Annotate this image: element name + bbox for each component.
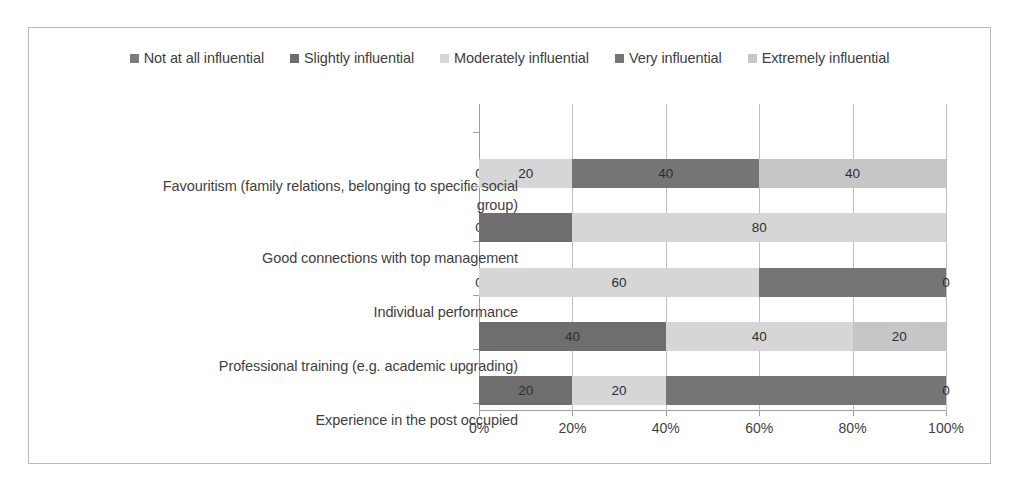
bar-segment[interactable]: 20	[853, 322, 946, 351]
gridline	[759, 104, 760, 411]
category-label: Individual performance	[118, 303, 518, 322]
bar-segment[interactable]: 20	[479, 376, 572, 405]
legend-item[interactable]: Slightly influential	[290, 50, 414, 66]
legend-item[interactable]: Not at all influential	[130, 50, 264, 66]
bar-segment[interactable]: 60	[479, 268, 759, 297]
chart-container: Not at all influentialSlightly influenti…	[28, 27, 991, 464]
legend-swatch-icon	[290, 54, 299, 63]
gridline	[666, 104, 667, 411]
bar-segment[interactable]	[479, 213, 572, 242]
bar-segment-data-label: 40	[565, 329, 580, 344]
plot-area: 0204040080060040402020200	[479, 104, 946, 411]
y-axis-tick	[473, 132, 479, 133]
bar-segment[interactable]	[666, 376, 946, 405]
x-axis-tick	[853, 411, 854, 416]
x-axis-label: 60%	[745, 420, 773, 436]
category-label: Experience in the post occupied	[118, 411, 518, 430]
legend-item-label: Not at all influential	[144, 50, 264, 66]
gridline	[946, 104, 947, 411]
x-axis-tick	[946, 411, 947, 416]
bar-segment-data-label: 40	[845, 166, 860, 181]
category-label-line: Favouritism (family relations, belonging…	[118, 177, 518, 196]
x-axis-label: 100%	[928, 420, 964, 436]
bar-segment-data-label: 20	[518, 383, 533, 398]
stacked-bar[interactable]: 080	[479, 213, 946, 242]
stacked-bar[interactable]: 404020	[479, 322, 946, 351]
category-label-line: group)	[118, 196, 518, 215]
gridline	[572, 104, 573, 411]
category-label: Good connections with top management	[118, 249, 518, 268]
legend-swatch-icon	[130, 54, 139, 63]
category-label-line: Professional training (e.g. academic upg…	[118, 357, 518, 376]
category-label-line: Experience in the post occupied	[118, 411, 518, 430]
stacked-bar[interactable]: 0600	[479, 268, 946, 297]
stacked-bar[interactable]: 0204040	[479, 159, 946, 188]
category-label-line: Individual performance	[118, 303, 518, 322]
legend-item-label: Moderately influential	[454, 50, 589, 66]
bar-segment[interactable]: 40	[666, 322, 853, 351]
legend-item-label: Very influential	[629, 50, 722, 66]
legend-swatch-icon	[440, 54, 449, 63]
x-axis-label: 80%	[839, 420, 867, 436]
bar-segment-data-label: 40	[658, 166, 673, 181]
x-axis-tick	[572, 411, 573, 416]
x-axis-label: 40%	[652, 420, 680, 436]
legend-item[interactable]: Extremely influential	[748, 50, 890, 66]
bar-segment-data-label: 20	[612, 383, 627, 398]
x-axis-tick	[666, 411, 667, 416]
category-label: Favouritism (family relations, belonging…	[118, 177, 518, 215]
legend-swatch-icon	[615, 54, 624, 63]
bar-segment[interactable]: 80	[572, 213, 946, 242]
stacked-bar[interactable]: 20200	[479, 376, 946, 405]
bar-segment-data-label: 20	[892, 329, 907, 344]
x-axis-tick	[759, 411, 760, 416]
chart-legend: Not at all influentialSlightly influenti…	[29, 50, 990, 66]
bar-segment-data-label: 40	[752, 329, 767, 344]
category-label: Professional training (e.g. academic upg…	[118, 357, 518, 376]
bar-segment[interactable]: 20	[572, 376, 665, 405]
bar-segment[interactable]: 40	[572, 159, 759, 188]
category-label-line: Good connections with top management	[118, 249, 518, 268]
legend-item[interactable]: Very influential	[615, 50, 722, 66]
legend-item[interactable]: Moderately influential	[440, 50, 589, 66]
gridline	[853, 104, 854, 411]
bar-segment[interactable]: 40	[479, 322, 666, 351]
bar-segment-data-label: 20	[518, 166, 533, 181]
legend-item-label: Slightly influential	[304, 50, 414, 66]
legend-item-label: Extremely influential	[762, 50, 890, 66]
bar-segment-data-label: 60	[612, 275, 627, 290]
bar-segment[interactable]: 40	[759, 159, 946, 188]
bar-segment-data-label: 80	[752, 220, 767, 235]
x-axis-line	[479, 410, 946, 411]
legend-swatch-icon	[748, 54, 757, 63]
x-axis-label: 0%	[469, 420, 489, 436]
x-axis-label: 20%	[558, 420, 586, 436]
bar-segment[interactable]	[759, 268, 946, 297]
